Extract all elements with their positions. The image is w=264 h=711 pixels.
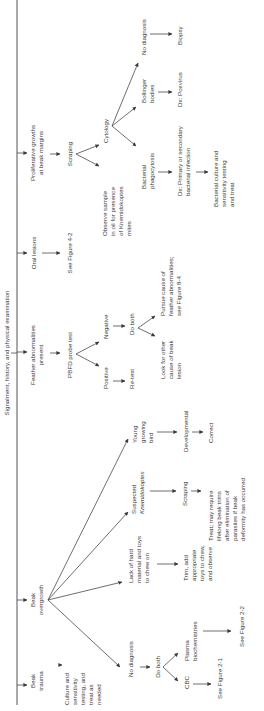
diagram-title: Signalment, history, and physical examin… — [3, 290, 10, 416]
svg-text:Pursue cause of: Pursue cause of — [159, 271, 166, 316]
svg-text:overgrowth: overgrowth — [37, 584, 44, 615]
svg-text:Bacterial culture and: Bacterial culture and — [212, 150, 219, 207]
see-figure-2-2: See Figure 2-2 — [238, 606, 245, 647]
proliferative-node: Proliferative growths at beak margins — [29, 125, 44, 181]
svg-text:Feather abnormalities: Feather abnormalities — [29, 325, 36, 385]
svg-text:needed: needed — [95, 684, 102, 705]
culture-sensitivity-node: Culture and sensitivity testing, and tre… — [63, 672, 102, 705]
svg-text:testing, and: testing, and — [79, 672, 86, 705]
young-bird-node: Young growing bird — [131, 421, 154, 443]
do-both-f-label: Do both — [128, 313, 135, 335]
svg-text:cause of beak: cause of beak — [167, 340, 174, 379]
bacterial-culture-node: Bacterial culture and sensitivity testin… — [212, 150, 235, 207]
svg-text:toys to chew,: toys to chew, — [198, 545, 205, 581]
svg-text:Observe sample: Observe sample — [101, 190, 108, 236]
svg-text:Young: Young — [131, 425, 138, 443]
no-diagnosis-p-node: No diagnosis — [140, 19, 147, 55]
svg-text:Beak: Beak — [29, 673, 36, 688]
knemidokoptes-node: Suspected Knemidokoptes — [130, 471, 145, 514]
svg-text:Look for other: Look for other — [159, 341, 166, 379]
positive-label: Positive — [102, 367, 109, 389]
svg-text:mites: mites — [125, 221, 132, 236]
svg-text:Treat; may require: Treat; may require — [207, 490, 214, 541]
svg-text:biochemistries: biochemistries — [191, 621, 198, 661]
negative-label: Negative — [102, 314, 109, 339]
svg-text:after elimination of: after elimination of — [223, 490, 230, 541]
bacterial-phagocytosis-node: Bacterial phagocytosis — [140, 153, 155, 189]
scraping-k-label: Scraping — [181, 481, 188, 506]
pbfd-label: PBFD probe test — [66, 332, 73, 378]
beak-lesion-flowchart: Signalment, history, and physical examin… — [0, 0, 264, 711]
svg-text:of Knemidokoptes: of Knemidokoptes — [117, 186, 124, 236]
correct-label: Correct — [207, 422, 214, 443]
svg-text:sensitivity: sensitivity — [71, 677, 78, 705]
svg-text:Plasma: Plasma — [183, 640, 190, 661]
arrow-to-plasma — [163, 653, 178, 667]
arrow-to-look-other — [138, 328, 155, 336]
svg-text:sensitivity testing: sensitivity testing — [220, 160, 227, 207]
svg-text:trauma: trauma — [37, 671, 44, 691]
svg-text:bird: bird — [147, 432, 154, 443]
svg-text:Knemidokoptes: Knemidokoptes — [138, 471, 145, 514]
svg-text:Proliferative growths: Proliferative growths — [29, 125, 36, 181]
svg-text:Bacterial: Bacterial — [140, 165, 147, 189]
arrow-to-bacterial — [112, 126, 136, 146]
cbc-label: CBC — [183, 675, 190, 689]
do-both-label: Do both — [154, 656, 161, 678]
arrow-to-knemidokoptes — [48, 512, 128, 600]
cytology-label: Cytology — [102, 118, 109, 143]
see-figure-2-1: See Figure 2-1 — [216, 658, 223, 699]
pursue-node: Pursue cause of feather abnormalities; s… — [159, 256, 182, 316]
svg-text:Dx: Primary or secondary: Dx: Primary or secondary — [176, 125, 183, 196]
svg-text:growing: growing — [139, 421, 146, 443]
beak-trauma-node: Beak trauma — [29, 671, 44, 691]
feather-node: Feather abnormalities present — [29, 325, 44, 385]
no-diagnosis-node: No diagnosis — [127, 641, 134, 677]
svg-text:Lack of hard: Lack of hard — [127, 548, 134, 583]
trim-observe-node: Trim, add appropriate toys to chew, and … — [182, 545, 213, 581]
svg-text:treat as: treat as — [87, 684, 94, 705]
svg-text:No diagnosis: No diagnosis — [140, 19, 147, 55]
treat-node: Treat; may require lifelong beak trims a… — [207, 478, 246, 541]
svg-text:in oil for presence: in oil for presence — [109, 187, 116, 236]
arrow-to-negative — [76, 342, 99, 354]
svg-text:Culture and: Culture and — [63, 672, 70, 705]
svg-text:No diagnosis: No diagnosis — [127, 641, 134, 677]
svg-text:bodies: bodies — [148, 85, 155, 103]
svg-text:Beak: Beak — [29, 592, 36, 607]
arrow-to-cbc — [163, 667, 178, 681]
svg-text:phagocytosis: phagocytosis — [148, 153, 155, 189]
arrow-to-positive — [76, 354, 99, 366]
bollinger-bodies-node: Bollinger bodies — [140, 79, 155, 103]
svg-text:Bollinger: Bollinger — [140, 79, 147, 103]
svg-text:lifelong beak trims: lifelong beak trims — [215, 491, 222, 541]
arrow-to-cytology — [76, 145, 99, 154]
svg-text:parasites if beak: parasites if beak — [231, 495, 238, 541]
svg-text:see Figure 8-4: see Figure 8-4 — [175, 276, 182, 316]
svg-text:Trim, add: Trim, add — [182, 555, 189, 581]
svg-text:bacterial infection: bacterial infection — [184, 147, 191, 196]
svg-text:at beak margins: at beak margins — [37, 131, 44, 175]
svg-text:feather abnormalities;: feather abnormalities; — [167, 256, 174, 316]
svg-text:lesion: lesion — [175, 362, 182, 379]
arrow-to-no-diagnosis-p — [112, 63, 138, 126]
svg-text:to chew on: to chew on — [143, 553, 150, 583]
bacterial-dx-node: Dx: Primary or secondary bacterial infec… — [176, 125, 191, 196]
svg-text:and treat: and treat — [228, 182, 235, 207]
beak-overgrowth-node: Beak overgrowth — [29, 584, 44, 615]
arrow-to-observe — [76, 154, 99, 166]
svg-text:present: present — [37, 344, 44, 365]
observe-sample-node: Observe sample in oil for presence of Kn… — [101, 186, 132, 236]
oral-lesions-label: Oral lesions — [30, 237, 37, 270]
svg-text:and observe: and observe — [206, 546, 213, 581]
biopsy-label: Biopsy — [176, 26, 183, 45]
plasma-biochemistries-node: Plasma biochemistries — [183, 621, 198, 661]
arrow-to-no-diagnosis — [48, 600, 120, 667]
arrow-to-lack-material — [48, 582, 122, 600]
see-figure-4-2: See Figure 4-2 — [66, 232, 73, 273]
poxvirus-label: Dx: Poxvirus — [176, 72, 183, 107]
arrow-to-pursue — [138, 316, 155, 328]
svg-text:Suspected: Suspected — [130, 484, 137, 514]
svg-text:material and toys: material and toys — [135, 536, 142, 583]
look-other-node: Look for other cause of beak lesion — [159, 340, 182, 379]
